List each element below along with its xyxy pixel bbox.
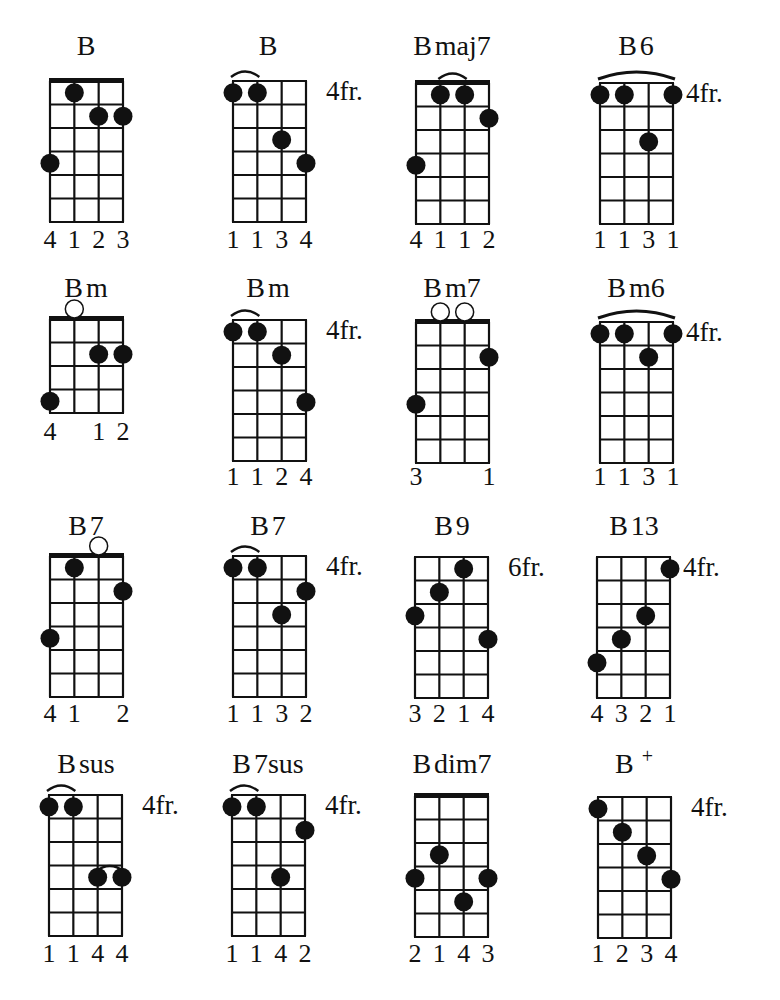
open-string-icon xyxy=(65,300,83,318)
finger-dot-icon xyxy=(407,395,426,414)
finger-dot-icon xyxy=(296,821,315,840)
finger-number: 3 xyxy=(275,225,288,254)
finger-dot-icon xyxy=(114,345,133,364)
finger-dot-icon xyxy=(591,85,610,104)
finger-dot-icon xyxy=(89,345,108,364)
fretboard-grid xyxy=(232,556,307,697)
finger-dot-icon xyxy=(430,845,449,864)
finger-dot-icon xyxy=(613,823,632,842)
finger-dot-icon xyxy=(406,869,425,888)
fretboard-grid xyxy=(414,557,489,698)
finger-number: 4 xyxy=(300,225,313,254)
finger-number: 2 xyxy=(299,939,312,968)
fretboard-grid xyxy=(49,553,124,697)
finger-dot-icon xyxy=(224,83,243,102)
barre-arc-icon xyxy=(230,785,258,791)
finger-dot-icon xyxy=(297,154,316,173)
finger-dot-icon xyxy=(639,132,658,151)
finger-number: 1 xyxy=(251,699,264,728)
finger-number: 2 xyxy=(433,699,446,728)
finger-number: 3 xyxy=(482,939,495,968)
barre-arc-icon xyxy=(47,785,75,791)
fretboard-grid xyxy=(599,83,674,224)
chord-name: B xyxy=(259,30,278,61)
finger-dot-icon xyxy=(406,606,425,625)
finger-number: 3 xyxy=(409,699,422,728)
fretboard-grid xyxy=(415,319,490,463)
finger-dot-icon xyxy=(272,346,291,365)
fret-position-label: 4fr. xyxy=(686,78,723,108)
finger-dot-icon xyxy=(113,868,132,887)
finger-dot-icon xyxy=(89,107,108,126)
chord-name: Bmaj7 xyxy=(413,30,491,61)
fret-position-label: 4fr. xyxy=(326,315,363,345)
finger-number: 3 xyxy=(642,225,655,254)
fretboard-grid xyxy=(414,793,489,937)
chord-diagram: B+4fr.1234 xyxy=(589,745,728,968)
open-string-icon xyxy=(90,537,108,555)
finger-number: 4 xyxy=(274,939,287,968)
finger-dot-icon xyxy=(247,797,266,816)
finger-number: 2 xyxy=(483,225,496,254)
finger-dot-icon xyxy=(591,324,610,343)
finger-dot-icon xyxy=(479,630,498,649)
finger-number: 4 xyxy=(116,939,129,968)
fretboard-grid xyxy=(49,316,124,413)
nut xyxy=(415,80,490,85)
fretboard-grid xyxy=(597,797,672,938)
finger-number: 1 xyxy=(458,225,471,254)
chord-diagram: Bmaj74112 xyxy=(407,30,499,254)
chord-diagrams: B4123B4fr.1134Bmaj74112B64fr.1131Bm412Bm… xyxy=(0,0,780,1000)
chord-name: Bdim7 xyxy=(412,748,491,779)
fretboard-grid xyxy=(415,80,490,224)
chord-diagram: Bm731 xyxy=(407,272,499,491)
chord-diagram: Bsus4fr.1144 xyxy=(40,748,179,968)
chord-diagram: B134fr.4321 xyxy=(588,510,720,728)
finger-dot-icon xyxy=(639,348,658,367)
finger-number: 1 xyxy=(226,939,239,968)
finger-number: 4 xyxy=(591,699,604,728)
chord-diagram: B64fr.1131 xyxy=(591,30,723,254)
finger-dot-icon xyxy=(65,83,84,102)
finger-dot-icon xyxy=(589,799,608,818)
finger-number: 1 xyxy=(92,417,105,446)
chord-name: B7sus xyxy=(232,748,303,779)
barre-arc-icon xyxy=(598,72,675,79)
barre-arc-icon xyxy=(438,73,466,79)
finger-number: 1 xyxy=(618,462,631,491)
finger-dot-icon xyxy=(636,606,655,625)
finger-number: 3 xyxy=(615,699,628,728)
fretboard-grid xyxy=(596,557,671,698)
finger-number: 4 xyxy=(91,939,104,968)
finger-dot-icon xyxy=(615,324,634,343)
finger-dot-icon xyxy=(65,558,84,577)
fretboard-grid xyxy=(599,322,674,463)
finger-number: 3 xyxy=(410,462,423,491)
finger-dot-icon xyxy=(224,558,243,577)
finger-number: 1 xyxy=(594,225,607,254)
finger-number: 2 xyxy=(300,699,313,728)
open-string-icon xyxy=(456,303,474,321)
chord-name: Bm6 xyxy=(607,272,664,303)
finger-dot-icon xyxy=(479,869,498,888)
finger-dot-icon xyxy=(480,348,499,367)
finger-number: 2 xyxy=(117,699,130,728)
chord-name: Bm xyxy=(64,272,108,303)
finger-dot-icon xyxy=(224,322,243,341)
finger-number: 4 xyxy=(482,699,495,728)
finger-number: 3 xyxy=(275,699,288,728)
finger-dot-icon xyxy=(248,322,267,341)
chord-name: B+ xyxy=(615,745,653,779)
finger-dot-icon xyxy=(407,156,426,175)
chord-diagram: B7sus4fr.1142 xyxy=(223,748,362,968)
barre-arc-icon xyxy=(598,311,675,318)
finger-number: 1 xyxy=(250,939,263,968)
finger-dot-icon xyxy=(114,582,133,601)
fret-position-label: 4fr. xyxy=(142,790,179,820)
finger-dot-icon xyxy=(454,892,473,911)
finger-number: 3 xyxy=(117,225,130,254)
chord-name: B9 xyxy=(434,510,470,541)
finger-number: 3 xyxy=(640,939,653,968)
finger-number: 1 xyxy=(227,225,240,254)
finger-number: 1 xyxy=(667,462,680,491)
